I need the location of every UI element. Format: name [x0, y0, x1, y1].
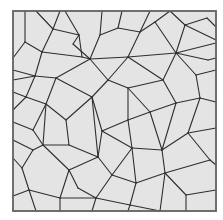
penrose-tiling-figure [0, 0, 223, 220]
square-frame [13, 11, 216, 211]
